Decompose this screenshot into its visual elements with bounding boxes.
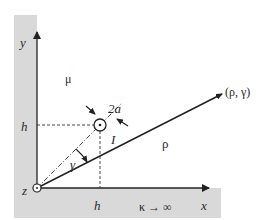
bottom-ground-shading [14, 188, 221, 218]
rho-vector [37, 94, 222, 188]
gamma-angle-arc [76, 149, 87, 162]
height-label-x: h [94, 199, 101, 212]
diameter-label: 2a [108, 102, 121, 115]
diameter-arrow-upper [86, 106, 95, 114]
diagram-svg [0, 0, 271, 220]
x-axis-label: x [201, 199, 207, 212]
current-label: I [111, 133, 115, 146]
y-axis-label: y [20, 36, 26, 49]
z-axis-label: z [22, 184, 27, 197]
gamma-label: γ [70, 158, 75, 171]
field-point-label: (ρ, γ) [225, 86, 250, 98]
conductivity-label: κ → ∞ [139, 201, 172, 213]
mu-label: μ [65, 73, 71, 85]
diameter-arrow-lower [117, 119, 128, 126]
current-out-of-page-dot [99, 124, 102, 127]
height-label-y: h [21, 120, 28, 133]
origin-dot [36, 187, 38, 189]
rho-label: ρ [162, 137, 169, 150]
diagram-canvas: y μ 2a h I (ρ, γ) ρ γ z h κ → ∞ x [0, 0, 271, 220]
